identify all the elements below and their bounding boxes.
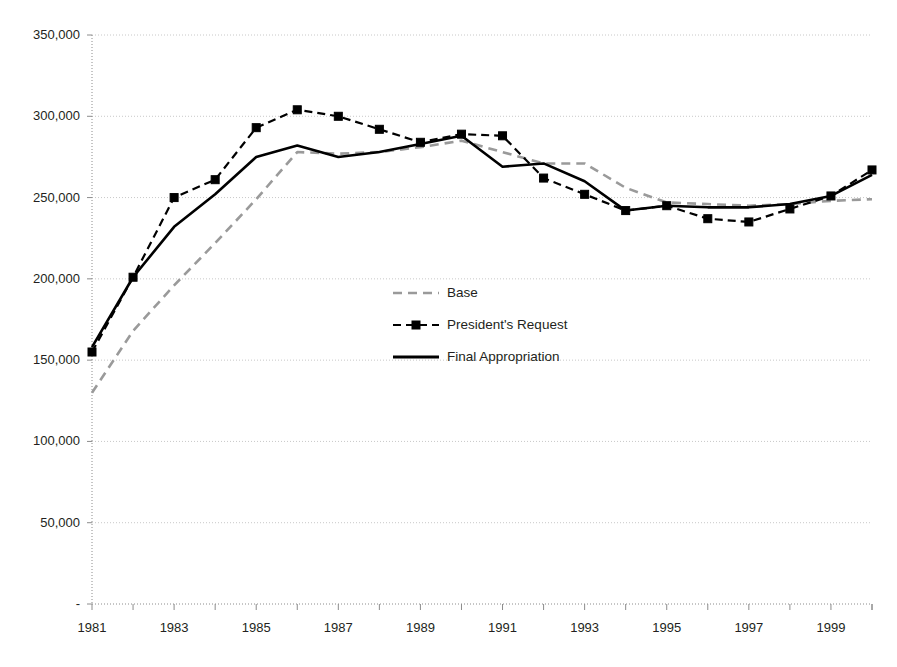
data-point-marker bbox=[499, 132, 507, 140]
y-axis-tick-label: 250,000 bbox=[33, 190, 80, 205]
x-axis-tick-label: 1995 bbox=[652, 620, 681, 635]
data-point-marker bbox=[170, 194, 178, 202]
y-axis-tick-label: - bbox=[76, 596, 80, 611]
data-point-marker bbox=[745, 218, 753, 226]
data-point-marker bbox=[581, 190, 589, 198]
data-point-marker bbox=[293, 106, 301, 114]
chart-legend: BasePresident's RequestFinal Appropriati… bbox=[393, 285, 568, 364]
legend-label: Base bbox=[447, 285, 478, 300]
legend-marker bbox=[412, 321, 420, 329]
x-axis-tick-label: 1985 bbox=[242, 620, 271, 635]
y-axis-tick-label: 150,000 bbox=[33, 352, 80, 367]
gridlines-group bbox=[92, 35, 872, 523]
line-chart: -50,000100,000150,000200,000250,000300,0… bbox=[0, 0, 897, 667]
y-axis-ticks bbox=[87, 35, 92, 604]
y-axis-tick-label: 50,000 bbox=[40, 515, 80, 530]
data-point-marker bbox=[704, 215, 712, 223]
y-axis-tick-label: 100,000 bbox=[33, 433, 80, 448]
chart-container: -50,000100,000150,000200,000250,000300,0… bbox=[0, 0, 897, 667]
x-axis-tick-label: 1981 bbox=[78, 620, 107, 635]
y-axis-tick-label: 200,000 bbox=[33, 271, 80, 286]
data-point-marker bbox=[252, 124, 260, 132]
data-point-marker bbox=[786, 205, 794, 213]
legend-label: Final Appropriation bbox=[447, 349, 560, 364]
x-axis-tick-label: 1999 bbox=[816, 620, 845, 635]
data-point-marker bbox=[88, 348, 96, 356]
x-axis-tick-label: 1997 bbox=[734, 620, 763, 635]
legend-label: President's Request bbox=[447, 317, 568, 332]
x-axis-tick-labels: 1981198319851987198919911993199519971999 bbox=[78, 620, 846, 635]
x-axis-tick-label: 1989 bbox=[406, 620, 435, 635]
y-axis-tick-label: 350,000 bbox=[33, 27, 80, 42]
data-point-marker bbox=[868, 166, 876, 174]
series-line-final-appropriation bbox=[92, 136, 872, 347]
x-axis-ticks bbox=[92, 604, 872, 610]
data-point-marker bbox=[540, 174, 548, 182]
data-point-marker bbox=[211, 176, 219, 184]
x-axis-tick-label: 1983 bbox=[160, 620, 189, 635]
y-axis-tick-label: 300,000 bbox=[33, 108, 80, 123]
x-axis-tick-label: 1991 bbox=[488, 620, 517, 635]
data-point-marker bbox=[334, 112, 342, 120]
x-axis-tick-label: 1993 bbox=[570, 620, 599, 635]
data-point-marker bbox=[375, 125, 383, 133]
y-axis-tick-labels: -50,000100,000150,000200,000250,000300,0… bbox=[33, 27, 80, 611]
x-axis-tick-label: 1987 bbox=[324, 620, 353, 635]
